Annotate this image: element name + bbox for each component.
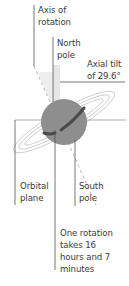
tilt-wedge-angled [38,72,53,102]
rotation-period-label: One rotation takes 16 hours and 7 minute… [60,227,113,275]
planet-band-left [44,133,55,134]
planet-tilt-diagram: Axis of rotation North pole Axial tilt o… [0,0,129,286]
north-pole-label: North pole [57,37,81,61]
planet [41,99,87,145]
axial-tilt-label: Axial tilt of 29.6° [87,58,121,82]
tilt-wedge [53,65,60,102]
axis-of-rotation-label: Axis of rotation [38,4,71,28]
orbital-plane-label: Orbital plane [20,180,48,204]
south-pole-label: South pole [79,180,103,204]
